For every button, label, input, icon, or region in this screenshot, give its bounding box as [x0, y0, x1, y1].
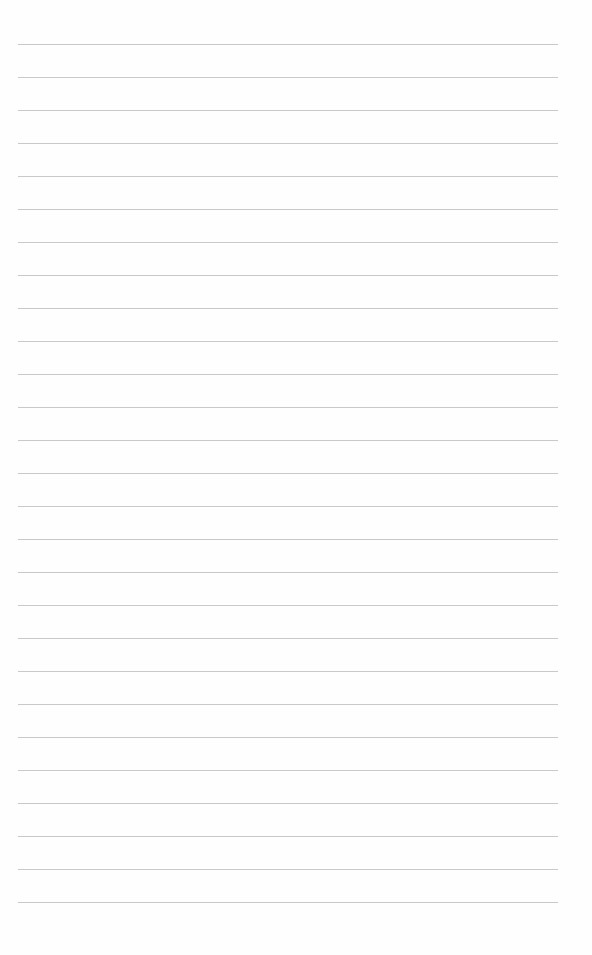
- ruled-line: [18, 836, 558, 837]
- ruled-line: [18, 176, 558, 177]
- lined-page: [0, 0, 592, 955]
- ruled-line: [18, 902, 558, 903]
- ruled-line: [18, 143, 558, 144]
- ruled-line: [18, 110, 558, 111]
- ruled-line: [18, 209, 558, 210]
- ruled-line: [18, 440, 558, 441]
- ruled-line: [18, 275, 558, 276]
- ruled-line: [18, 770, 558, 771]
- ruled-line: [18, 869, 558, 870]
- ruled-line: [18, 737, 558, 738]
- ruled-line: [18, 605, 558, 606]
- ruled-line: [18, 407, 558, 408]
- ruled-line: [18, 374, 558, 375]
- ruled-line: [18, 77, 558, 78]
- ruled-line: [18, 671, 558, 672]
- ruled-line: [18, 242, 558, 243]
- ruled-line: [18, 308, 558, 309]
- ruled-line: [18, 803, 558, 804]
- ruled-line: [18, 572, 558, 573]
- ruled-line: [18, 473, 558, 474]
- ruled-line: [18, 506, 558, 507]
- ruled-line: [18, 44, 558, 45]
- ruled-line: [18, 638, 558, 639]
- ruled-line: [18, 341, 558, 342]
- ruled-line: [18, 539, 558, 540]
- ruled-line: [18, 704, 558, 705]
